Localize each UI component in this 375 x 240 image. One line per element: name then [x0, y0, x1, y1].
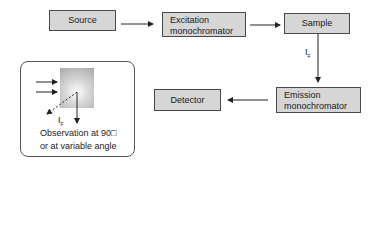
inset-fluorescence-label: IF: [58, 115, 64, 126]
inset-dashed-emission-ray: [47, 92, 77, 114]
inset-caption-line1: Observation at 90□: [40, 127, 117, 140]
inset-caption-line2: or at variable angle: [40, 140, 117, 153]
inset-caption: Observation at 90□ or at variable angle: [40, 127, 117, 153]
